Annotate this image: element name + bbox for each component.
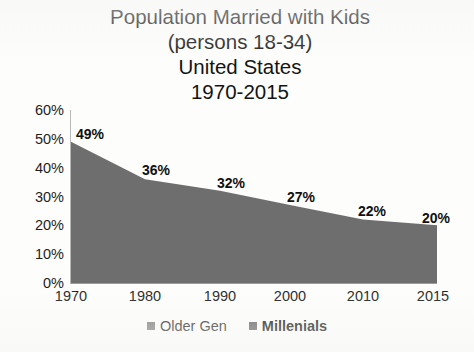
- legend-swatch-icon-older-gen: [147, 322, 155, 330]
- chart-title: Population Married with Kids (persons 18…: [40, 4, 440, 104]
- legend-item-millenials[interactable]: Millenials: [249, 318, 327, 334]
- legend-swatch-icon-millenials: [249, 322, 257, 330]
- chart-title-line-1: Population Married with Kids: [40, 4, 440, 29]
- legend-label-older-gen: Older Gen: [160, 318, 227, 334]
- chart-screenshot: Population Married with Kids (persons 18…: [0, 0, 474, 352]
- area-series-older-gen: [71, 110, 437, 283]
- data-label-2010: 22%: [358, 203, 386, 219]
- y-tick-60: 60%: [9, 102, 71, 118]
- x-axis-line: [71, 283, 437, 284]
- data-label-1970: 49%: [76, 126, 104, 142]
- data-label-1980: 36%: [142, 162, 170, 178]
- x-tick-2000: 2000: [274, 288, 306, 304]
- y-tick-40: 40%: [9, 160, 71, 176]
- data-label-2000: 27%: [287, 189, 315, 205]
- y-tick-10: 10%: [9, 246, 71, 262]
- data-label-1990: 32%: [217, 175, 245, 191]
- chart-title-line-2: (persons 18-34): [40, 29, 440, 54]
- x-tick-1980: 1980: [129, 288, 161, 304]
- y-tick-50: 50%: [9, 131, 71, 147]
- chart-legend: Older Gen Millenials: [0, 318, 474, 334]
- chart-title-line-3: United States: [40, 54, 440, 79]
- data-label-2015: 20%: [422, 210, 450, 226]
- x-tick-2010: 2010: [347, 288, 379, 304]
- legend-item-older-gen[interactable]: Older Gen: [147, 318, 227, 334]
- x-tick-2015: 2015: [417, 288, 449, 304]
- legend-label-millenials: Millenials: [262, 318, 327, 334]
- plot-area: [71, 110, 437, 283]
- x-tick-1990: 1990: [204, 288, 236, 304]
- y-tick-30: 30%: [9, 189, 71, 205]
- chart-title-line-4: 1970-2015: [40, 79, 440, 104]
- y-tick-20: 20%: [9, 217, 71, 233]
- x-tick-1970: 1970: [55, 288, 87, 304]
